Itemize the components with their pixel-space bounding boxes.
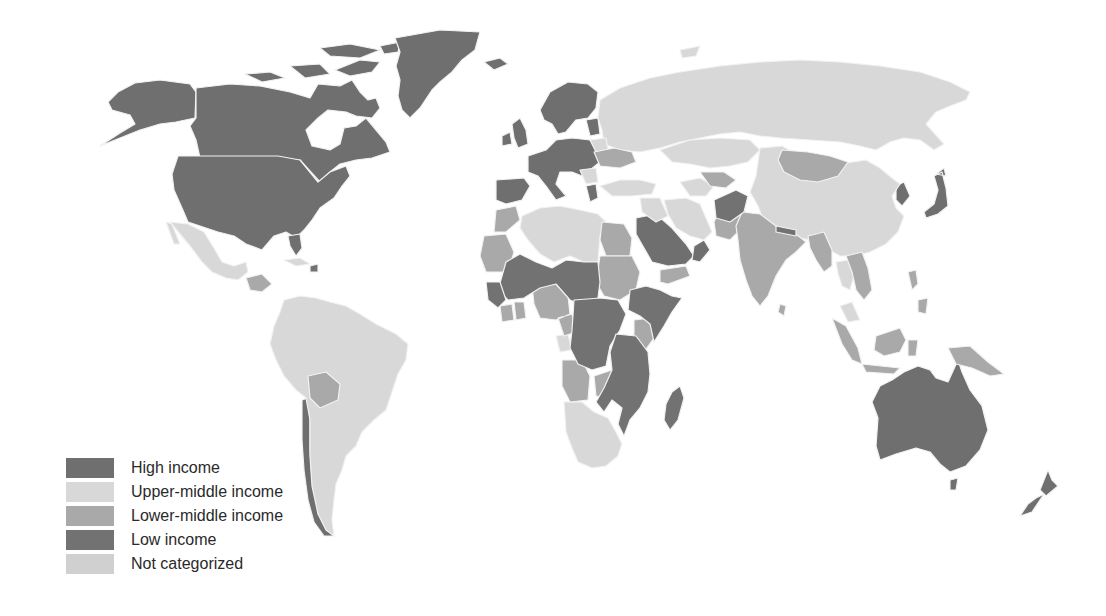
region-canada-arctic <box>245 42 400 82</box>
region-gabon <box>556 334 572 352</box>
legend-item-low-income: Low income <box>66 528 283 552</box>
region-central-america <box>246 274 272 292</box>
region-turkey <box>600 180 656 196</box>
legend-label: Not categorized <box>131 554 243 574</box>
legend: High income Upper-middle income Lower-mi… <box>66 456 283 576</box>
region-greece <box>586 184 598 202</box>
legend-item-not-categorized: Not categorized <box>66 552 283 576</box>
legend-label: Upper-middle income <box>131 482 283 502</box>
legend-item-upper-middle-income: Upper-middle income <box>66 480 283 504</box>
region-baltics <box>586 118 600 136</box>
region-cuba <box>284 258 310 266</box>
region-madagascar <box>664 386 684 430</box>
region-north-africa <box>520 206 606 262</box>
region-yemen <box>660 266 690 284</box>
region-tasmania <box>950 478 958 490</box>
region-alaska <box>100 80 196 146</box>
region-russia <box>598 60 970 152</box>
region-iceland <box>484 58 508 70</box>
region-egypt <box>600 222 632 256</box>
region-morocco <box>494 206 520 232</box>
legend-swatch-not-categorized <box>66 554 114 574</box>
region-oman-uae <box>692 240 710 262</box>
region-new-zealand <box>1020 470 1058 516</box>
legend-swatch-low-income <box>66 530 114 550</box>
region-sri-lanka <box>778 304 786 316</box>
legend-label: High income <box>131 458 220 478</box>
region-haiti <box>310 264 318 272</box>
region-southern-africa <box>564 402 622 468</box>
region-florida <box>288 234 302 256</box>
legend-item-lower-middle-income: Lower-middle income <box>66 504 283 528</box>
region-south-america <box>270 296 408 536</box>
region-ukraine <box>594 148 636 168</box>
region-uk <box>502 118 528 148</box>
region-malaysia <box>840 302 860 322</box>
legend-label: Lower-middle income <box>131 506 283 526</box>
region-australia <box>872 360 988 472</box>
legend-label: Low income <box>131 530 216 550</box>
region-indonesia <box>832 318 918 374</box>
legend-swatch-lower-middle-income <box>66 506 114 526</box>
region-greenland <box>395 30 480 118</box>
legend-swatch-upper-middle-income <box>66 482 114 502</box>
legend-item-high-income: High income <box>66 456 283 480</box>
region-iberia <box>496 178 530 204</box>
legend-swatch-high-income <box>66 458 114 478</box>
region-novaya-zemlya <box>680 46 700 58</box>
region-philippines <box>908 270 928 314</box>
region-japan <box>924 168 948 218</box>
